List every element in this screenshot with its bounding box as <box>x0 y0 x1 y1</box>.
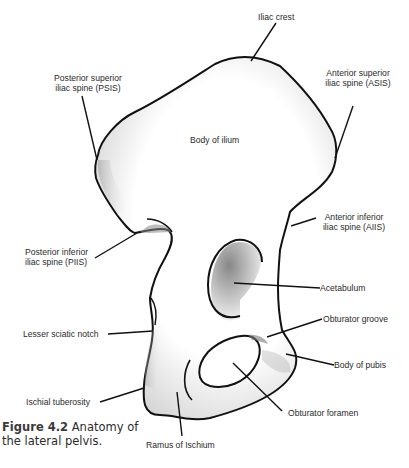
label-psis: Posterior superior iliac spine (PSIS) <box>46 73 130 93</box>
label-aiis: Anterior inferior iliac spine (AIIS) <box>314 212 394 232</box>
label-asis-line2: iliac spine (ASIS) <box>313 78 403 88</box>
label-piis: Posterior inferior iliac spine (PIIS) <box>25 247 88 267</box>
leader-iliac-crest <box>251 23 276 61</box>
leader-psis <box>82 96 97 160</box>
leader-ischial-tuberosity <box>100 388 144 402</box>
label-aiis-line2: iliac spine (AIIS) <box>314 222 394 232</box>
label-psis-line1: Posterior superior <box>46 73 130 83</box>
leader-piis <box>95 233 137 258</box>
caption-line1: Anatomy of <box>72 420 139 434</box>
label-lesser-sciatic-notch: Lesser sciatic notch <box>23 329 98 339</box>
label-body-of-ilium: Body of ilium <box>190 135 239 145</box>
label-ischial-tuberosity: Ischial tuberosity <box>26 397 90 407</box>
label-asis-line1: Anterior superior <box>313 68 403 78</box>
label-body-of-pubis: Body of pubis <box>334 360 386 370</box>
caption-line2: the lateral pelvis. <box>2 434 142 448</box>
label-asis: Anterior superior iliac spine (ASIS) <box>313 68 403 88</box>
leader-asis <box>335 106 353 158</box>
figure-number: Figure 4.2 <box>2 420 68 434</box>
leader-sciatic-notch <box>108 331 153 334</box>
pelvis-figure: Iliac crest Posterior superior iliac spi… <box>0 0 409 468</box>
label-iliac-crest: Iliac crest <box>258 12 294 22</box>
label-aiis-line1: Anterior inferior <box>314 212 394 222</box>
label-ramus-of-ischium: Ramus of Ischium <box>146 440 215 450</box>
figure-caption: Figure 4.2 Anatomy of the lateral pelvis… <box>2 420 142 448</box>
label-piis-line1: Posterior inferior <box>25 247 88 257</box>
label-obturator-groove: Obturator groove <box>323 314 388 324</box>
label-piis-line2: iliac spine (PIIS) <box>25 257 88 267</box>
label-acetabulum: Acetabulum <box>320 283 365 293</box>
label-psis-line2: iliac spine (PSIS) <box>46 83 130 93</box>
label-obturator-foramen: Obturator foramen <box>288 408 358 418</box>
leader-aiis <box>291 218 316 226</box>
